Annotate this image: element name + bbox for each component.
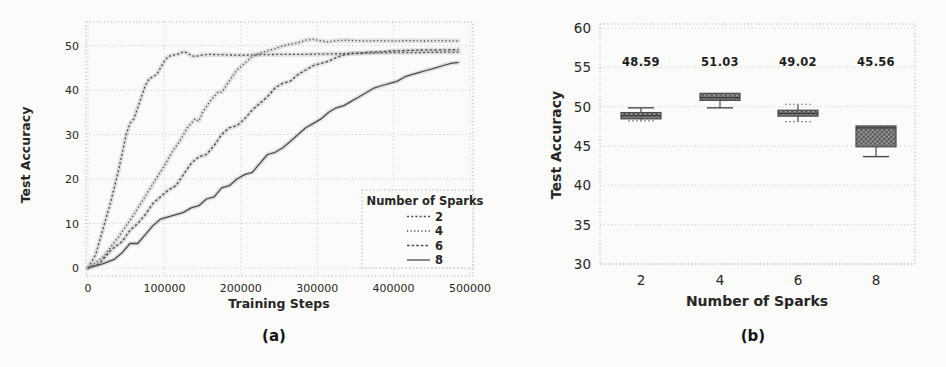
y-tick-label-a: 20 bbox=[65, 173, 79, 186]
y-tick-label-a: 40 bbox=[65, 84, 79, 97]
box-4 bbox=[700, 93, 740, 100]
legend-label-2: 2 bbox=[435, 210, 443, 224]
x-tick-label-a: 300000 bbox=[296, 282, 338, 295]
mean-label-6: 49.02 bbox=[779, 55, 817, 69]
caption-b: (b) bbox=[741, 327, 765, 345]
x-tick-label-a: 0 bbox=[85, 282, 92, 295]
y-tick-label-b: 55 bbox=[574, 59, 591, 75]
y-tick-label-b: 35 bbox=[574, 217, 591, 233]
legend-label-6: 6 bbox=[435, 239, 443, 253]
x-tick-label-b: 4 bbox=[716, 272, 725, 288]
legend: Number of Sparks 2468 bbox=[362, 190, 484, 268]
y-tick-label-b: 30 bbox=[574, 256, 591, 272]
legend-label-4: 4 bbox=[435, 224, 443, 238]
mean-label-4: 51.03 bbox=[701, 55, 739, 69]
x-axis-label-a: Training Steps bbox=[228, 296, 329, 311]
x-tick-label-a: 200000 bbox=[220, 282, 262, 295]
box-plot-boxes: 48.5951.0349.0245.56 bbox=[621, 55, 896, 157]
x-tick-label-b: 6 bbox=[794, 272, 803, 288]
figure-canvas: 0100000200000300000400000500000010203040… bbox=[0, 0, 946, 367]
mean-label-8: 45.56 bbox=[857, 55, 895, 69]
box-8 bbox=[856, 126, 896, 147]
y-tick-label-a: 50 bbox=[65, 40, 79, 53]
y-tick-label-a: 0 bbox=[72, 262, 79, 275]
y-axis-label-a: Test Accuracy bbox=[18, 107, 33, 204]
two-panel-figure: 0100000200000300000400000500000010203040… bbox=[0, 0, 946, 367]
caption-a: (a) bbox=[262, 327, 286, 345]
y-tick-label-b: 60 bbox=[574, 20, 591, 36]
box-plot-panel: 48.5951.0349.0245.56 303540455055602468 … bbox=[548, 20, 915, 345]
y-tick-label-b: 50 bbox=[574, 99, 591, 115]
line-chart-panel: 0100000200000300000400000500000010203040… bbox=[18, 22, 491, 345]
x-tick-label-a: 400000 bbox=[373, 282, 415, 295]
y-tick-label-a: 10 bbox=[65, 218, 79, 231]
x-tick-label-a: 100000 bbox=[143, 282, 185, 295]
legend-label-8: 8 bbox=[435, 253, 443, 267]
x-tick-label-b: 8 bbox=[872, 272, 881, 288]
x-tick-label-a: 500000 bbox=[449, 282, 491, 295]
y-tick-label-a: 30 bbox=[65, 129, 79, 142]
y-tick-label-b: 45 bbox=[574, 138, 591, 154]
y-axis-label-b: Test Accuracy bbox=[548, 91, 564, 199]
y-tick-label-b: 40 bbox=[574, 177, 591, 193]
mean-label-2: 48.59 bbox=[622, 55, 660, 69]
legend-title: Number of Sparks bbox=[367, 194, 484, 208]
x-axis-label-b: Number of Sparks bbox=[686, 293, 828, 309]
x-tick-label-b: 2 bbox=[637, 272, 646, 288]
